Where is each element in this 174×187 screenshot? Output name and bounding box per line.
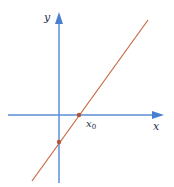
graph-canvas: y x x0: [0, 0, 174, 187]
y-axis-arrow-icon: [55, 12, 63, 24]
function-line: [32, 20, 148, 181]
x-intercept-point: [77, 113, 81, 117]
x-axis-arrow-icon: [152, 111, 164, 119]
y-intercept-point: [57, 140, 61, 144]
y-axis-label: y: [43, 11, 51, 24]
x0-label: x0: [86, 118, 96, 131]
x-axis-label: x: [153, 120, 160, 133]
